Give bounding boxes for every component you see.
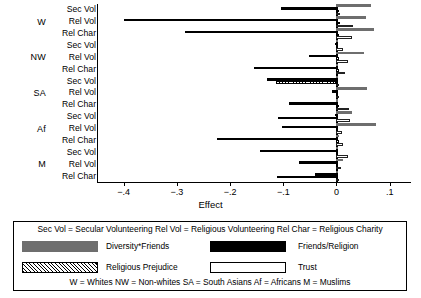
bar-diversity_friends: [336, 76, 338, 78]
bar-trust: [336, 72, 345, 74]
bar-trust: [336, 143, 343, 145]
bar-friends_religion: [282, 126, 336, 128]
bar-row: [97, 99, 411, 111]
y-axis-labels: WSec VolRel VolRel CharNWSec VolRel VolR…: [0, 4, 96, 182]
bar-row: [97, 16, 411, 28]
y-group-sa: SASec VolRel VolRel Char: [0, 75, 96, 111]
x-tick: [283, 182, 284, 186]
bar-friends_religion: [309, 55, 337, 57]
bar-friends_religion: [185, 31, 337, 33]
row-label: Rel Char: [44, 135, 96, 146]
y-group-nw: NWSec VolRel VolRel Char: [0, 40, 96, 76]
legend-label: Diversity*Friends: [106, 241, 169, 252]
group-label: W: [4, 17, 46, 27]
bar-diversity_friends: [336, 99, 337, 101]
bar-trust: [336, 179, 338, 181]
bar-trust: [336, 155, 347, 157]
bar-row: [97, 146, 411, 158]
x-tick-label: −.1: [277, 187, 290, 197]
bar-row: [97, 87, 411, 99]
x-tick-label: −.4: [117, 187, 130, 197]
bar-trust: [336, 96, 339, 98]
bar-diversity_friends: [336, 52, 364, 54]
x-tick-label: .1: [386, 187, 394, 197]
bar-friends_religion: [254, 67, 336, 69]
x-tick: [336, 182, 337, 186]
bar-diversity_friends: [336, 16, 365, 18]
legend-footer: W = Whites NW = Non-whites SA = South As…: [14, 277, 406, 287]
bar-diversity_friends: [336, 111, 352, 113]
bar-religious_prejudice: [277, 176, 337, 178]
row-labels: Sec VolRel VolRel Char: [44, 4, 96, 40]
y-group-w: WSec VolRel VolRel Char: [0, 4, 96, 40]
row-label: Rel Char: [44, 64, 96, 75]
bar-row: [97, 40, 411, 52]
x-tick-label: −.2: [224, 187, 237, 197]
bar-row: [97, 51, 411, 63]
bars-panel: [97, 4, 411, 182]
x-tick: [177, 182, 178, 186]
group-label: NW: [4, 52, 46, 62]
bar-row: [97, 111, 411, 123]
bar-friends_religion: [281, 7, 337, 9]
legend-swatch-empty-outline: [210, 262, 286, 273]
x-tick: [124, 182, 125, 186]
legend-header: Sec Vol = Secular Volunteering Rel Vol =…: [14, 224, 406, 234]
bar-friends_religion: [124, 19, 337, 21]
plot-area: WSec VolRel VolRel CharNWSec VolRel VolR…: [0, 0, 421, 212]
bar-diversity_friends: [336, 4, 371, 6]
y-group-af: AfSec VolRel VolRel Char: [0, 111, 96, 147]
bar-trust: [336, 108, 349, 110]
bar-diversity_friends: [336, 87, 367, 89]
row-label: Sec Vol: [44, 76, 96, 87]
group-label: SA: [4, 88, 46, 98]
bar-friends_religion: [260, 150, 336, 152]
bar-diversity_friends: [336, 123, 376, 125]
row-label: Sec Vol: [44, 111, 96, 122]
bar-trust: [336, 167, 340, 169]
legend-label: Friends/Religion: [298, 241, 359, 252]
bar-diversity_friends: [336, 28, 373, 30]
bar-diversity_friends: [336, 40, 337, 42]
bar-trust: [336, 119, 349, 121]
row-label: Rel Vol: [44, 52, 96, 63]
legend-box: Sec Vol = Secular Volunteering Rel Vol =…: [13, 221, 407, 291]
row-label: Sec Vol: [44, 40, 96, 51]
bar-religious_prejudice: [278, 117, 337, 119]
legend-label: Trust: [298, 262, 317, 273]
chart-figure: WSec VolRel VolRel CharNWSec VolRel VolR…: [0, 0, 421, 298]
bar-friends_religion: [299, 161, 336, 163]
y-group-m: MSec VolRel VolRel Char: [0, 146, 96, 182]
row-label: Rel Vol: [44, 87, 96, 98]
legend-swatch-hatched: [22, 262, 98, 273]
bar-trust: [336, 60, 347, 62]
bar-row: [97, 135, 411, 147]
group-label: Af: [4, 124, 46, 134]
x-axis-title: Effect: [0, 199, 421, 210]
bar-row: [97, 170, 411, 182]
bar-trust: [336, 36, 351, 38]
group-label: M: [4, 159, 46, 169]
bar-religious_prejudice: [276, 81, 337, 83]
bar-row: [97, 63, 411, 75]
legend-swatch-solid-gray: [22, 241, 98, 252]
row-label: Rel Vol: [44, 123, 96, 134]
row-label: Sec Vol: [44, 4, 96, 15]
bar-trust: [336, 131, 342, 133]
legend-swatch-solid-black: [210, 241, 286, 252]
bar-row: [97, 158, 411, 170]
bar-diversity_friends: [336, 147, 337, 149]
bar-friends_religion: [289, 102, 337, 104]
row-labels: Sec VolRel VolRel Char: [44, 146, 96, 182]
row-labels: Sec VolRel VolRel Char: [44, 75, 96, 111]
bar-row: [97, 28, 411, 40]
bar-trust: [336, 13, 339, 15]
bar-trust: [336, 84, 339, 86]
x-tick: [390, 182, 391, 186]
bar-trust: [336, 48, 343, 50]
bar-row: [97, 123, 411, 135]
row-labels: Sec VolRel VolRel Char: [44, 111, 96, 147]
row-label: Rel Char: [44, 28, 96, 39]
bar-friends_religion: [217, 138, 337, 140]
x-axis-line: [97, 182, 411, 183]
